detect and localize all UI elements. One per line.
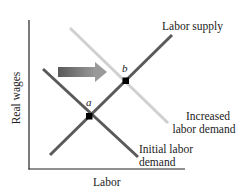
increased-demand-label-line1: Increased [168, 110, 244, 123]
labor-supply-label: Labor supply [162, 20, 223, 33]
initial-demand-label-line1: Initial labor [139, 143, 193, 156]
increased-demand-label-line2: labor demand [164, 123, 244, 136]
x-axis-label: Labor [93, 176, 120, 189]
labor-supply-curve [50, 35, 172, 155]
initial-demand-label-line2: demand [139, 156, 193, 169]
point-b-label: b [122, 62, 128, 74]
point-a-label: a [86, 96, 92, 108]
increased-demand-label: Increased labor demand [168, 110, 244, 135]
point-b-marker [123, 78, 130, 85]
point-a-marker [86, 113, 93, 120]
initial-demand-label: Initial labor demand [139, 143, 193, 168]
y-axis-label: Real wages [10, 68, 22, 128]
shift-arrow-icon [58, 62, 107, 82]
